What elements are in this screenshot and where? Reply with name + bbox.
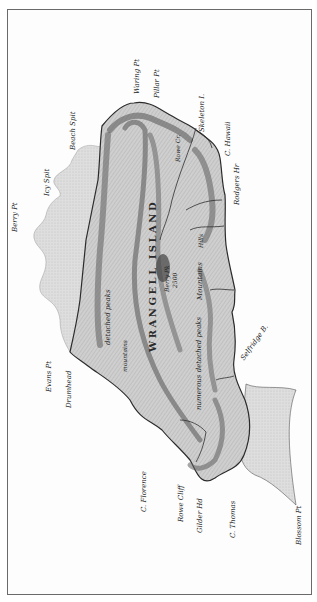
label-mountain-ridge: mountains xyxy=(122,340,128,372)
label-rodgers-harbor: Rodgers Hr xyxy=(234,164,241,205)
label-drumhead: Drumhead xyxy=(66,371,73,408)
label-rowe-creek: Rowe Cr. xyxy=(175,135,181,162)
label-c-thomas: C. Thomas xyxy=(230,501,237,538)
label-pillar-point: Pillar Pt xyxy=(154,69,161,98)
label-hills: Hills xyxy=(198,234,204,248)
label-evans-point: Evans Pt xyxy=(46,361,53,392)
label-waring-point: Waring Pt xyxy=(134,59,141,94)
label-detached-peaks: detached peaks xyxy=(105,289,112,345)
label-mountains-right: Mountains xyxy=(197,262,204,300)
label-berry-point: Berry Pt xyxy=(12,202,19,232)
label-c-hawaii: C. Hawaii xyxy=(225,122,232,156)
island-title: WRANGELL ISLAND xyxy=(148,200,158,352)
label-summit-elevation: 2500 xyxy=(172,273,178,288)
label-summit-name: Berry Pk xyxy=(164,265,170,292)
label-beach-spit: Beach Spit xyxy=(70,112,77,150)
label-icy-spit: Icy Spit xyxy=(44,169,51,196)
label-numerous-detached-peaks: numerous detached peaks xyxy=(196,317,203,410)
label-rowe-cliff: Rowe Cliff xyxy=(178,485,185,522)
label-skeleton-island: Skeleton I. xyxy=(199,94,206,132)
label-blossom-point: Blossom Pt xyxy=(296,506,303,545)
label-gilder-head: Gilder Hd xyxy=(197,498,204,533)
label-c-florence: C. Florence xyxy=(141,471,148,512)
